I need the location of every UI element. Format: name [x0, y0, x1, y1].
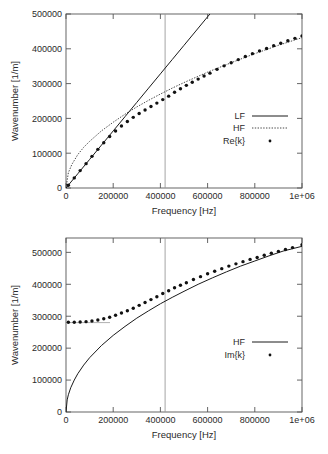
data-point [179, 87, 182, 90]
data-point [120, 124, 123, 127]
x-axis-title: Frequency [Hz] [152, 429, 216, 440]
data-point [155, 101, 158, 104]
data-point [185, 281, 188, 284]
x-tick-label: 600000 [193, 415, 223, 425]
x-tick-labels-top: 0 200000 400000 600000 800000 1e+06 [63, 191, 314, 201]
y-tick-label: 500000 [32, 9, 62, 19]
dispersion-figure: 0 200000 400000 600000 800000 1e+06 0 10… [0, 0, 328, 454]
data-point [120, 311, 123, 314]
data-point [286, 39, 289, 42]
data-point [108, 315, 111, 318]
data-point [179, 284, 182, 287]
x-ticks-top [66, 14, 302, 188]
series-hf [66, 38, 302, 188]
y-tick-labels-bottom: 0 100000 200000 300000 400000 500000 [32, 248, 62, 418]
y-tick-label: 300000 [32, 79, 62, 89]
data-point [114, 314, 117, 317]
data-point [84, 320, 87, 323]
y-ticks-top [66, 14, 302, 188]
data-point [73, 321, 76, 324]
imag-part-panel: 0 200000 400000 600000 800000 1e+06 0 10… [0, 227, 328, 454]
data-point [173, 286, 176, 289]
data-point [67, 184, 70, 187]
data-point [241, 260, 244, 263]
data-point [191, 81, 194, 84]
data-point [90, 155, 93, 158]
real-part-panel: 0 200000 400000 600000 800000 1e+06 0 10… [0, 0, 328, 227]
data-point [161, 98, 164, 101]
data-point [272, 44, 275, 47]
data-point [279, 42, 282, 45]
y-tick-label: 100000 [32, 149, 62, 159]
plot-frame-bottom [66, 238, 302, 412]
data-point [143, 301, 146, 304]
data-point [220, 267, 223, 270]
data-point [265, 47, 268, 50]
y-ticks-bottom [66, 252, 302, 412]
data-point [173, 91, 176, 94]
data-point [78, 320, 81, 323]
y-axis-title: Wavenumber [1/m] [9, 61, 20, 141]
data-point [234, 262, 237, 265]
plot-frame-top [66, 14, 302, 188]
x-tick-labels-bottom: 0 200000 400000 600000 800000 1e+06 [63, 415, 314, 425]
data-point [137, 304, 140, 307]
data-point [126, 309, 129, 312]
x-tick-label: 400000 [145, 191, 175, 201]
data-point [248, 258, 251, 261]
data-point [277, 250, 280, 253]
data-point [126, 120, 129, 123]
data-point [167, 289, 170, 292]
imag-part-plot: 0 200000 400000 600000 800000 1e+06 0 10… [0, 227, 328, 454]
x-tick-label: 0 [63, 191, 68, 201]
data-point [73, 176, 76, 179]
data-point [230, 61, 233, 64]
x-tick-label: 1e+06 [289, 191, 314, 201]
x-tick-label: 800000 [240, 191, 270, 201]
y-tick-label: 200000 [32, 114, 62, 124]
data-point [227, 264, 230, 267]
data-point [213, 270, 216, 273]
x-tick-label: 200000 [98, 191, 128, 201]
legend-label-lf: LF [234, 111, 245, 121]
data-point [202, 74, 205, 77]
data-point [102, 141, 105, 144]
y-tick-label: 400000 [32, 44, 62, 54]
x-axis-title: Frequency [Hz] [152, 205, 216, 216]
x-tick-label: 0 [63, 415, 68, 425]
data-point [199, 275, 202, 278]
data-point [215, 68, 218, 71]
data-point [251, 52, 254, 55]
data-point [132, 116, 135, 119]
data-point [102, 317, 105, 320]
data-point [270, 252, 273, 255]
series-group-top [66, 11, 304, 188]
y-tick-label: 300000 [32, 312, 62, 322]
data-point [78, 169, 81, 172]
legend-top: LF HF Re{k} [223, 111, 288, 146]
data-point [284, 248, 287, 251]
y-axis-title: Wavenumber [1/m] [9, 285, 20, 365]
data-point [206, 272, 209, 275]
data-point [167, 94, 170, 97]
y-tick-label: 100000 [32, 375, 62, 385]
y-tick-label: 500000 [32, 248, 62, 258]
data-point [291, 246, 294, 249]
series-lf [66, 11, 212, 188]
data-point [155, 295, 158, 298]
data-point [263, 254, 266, 257]
data-point [67, 321, 70, 324]
data-point [255, 256, 258, 259]
data-point [300, 34, 303, 37]
real-part-plot: 0 200000 400000 600000 800000 1e+06 0 10… [0, 0, 328, 227]
data-point [300, 243, 303, 246]
series-group-bottom [66, 243, 304, 412]
data-point [149, 105, 152, 108]
data-point [244, 55, 247, 58]
x-ticks-bottom [66, 238, 302, 412]
data-point [222, 64, 225, 67]
y-tick-label: 200000 [32, 343, 62, 353]
x-tick-label: 400000 [145, 415, 175, 425]
data-point [149, 298, 152, 301]
legend-bottom: HF Im{k} [224, 337, 288, 360]
